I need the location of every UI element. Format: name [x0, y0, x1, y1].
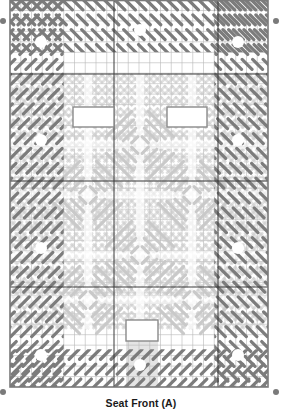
- motif-center: [35, 349, 47, 361]
- needlepoint-chart: [0, 0, 282, 395]
- motif-center: [35, 242, 47, 254]
- chart-caption: Seat Front (A): [0, 397, 282, 409]
- motif-center: [232, 36, 244, 48]
- motif-center: [232, 349, 244, 361]
- motif-center: [134, 359, 146, 371]
- stitch-field: [197, 74, 282, 329]
- stitch-dark: [0, 0, 1, 395]
- stitch-dark: [0, 349, 6, 395]
- motif-center: [232, 134, 244, 146]
- motif-center: [35, 36, 47, 48]
- stitch-gap: [136, 74, 144, 329]
- cutout-left: [73, 107, 114, 127]
- stitch-field: [278, 74, 282, 329]
- stitch: [167, 306, 186, 325]
- stitch-dark: [267, 349, 282, 395]
- corner-dot-bottom-right: [273, 389, 279, 395]
- stitch-field: [0, 74, 7, 329]
- stitch-dark: [267, 0, 282, 395]
- stitch-dark: [273, 0, 283, 395]
- stitch-dark: [0, 0, 1, 395]
- motif-center: [232, 242, 244, 254]
- stitch: [63, 306, 82, 325]
- cutout-right: [167, 107, 207, 127]
- corner-dot-bottom-left: [0, 389, 6, 395]
- motif-center: [134, 24, 146, 36]
- stitch-field: [271, 74, 282, 329]
- cutout-bottom: [126, 320, 158, 341]
- stitch-dark: [278, 349, 283, 395]
- corner-dot-top-left: [0, 18, 6, 24]
- stitch-dark: [277, 0, 282, 395]
- motif-center: [35, 134, 47, 146]
- corner-dot-top-right: [273, 18, 279, 24]
